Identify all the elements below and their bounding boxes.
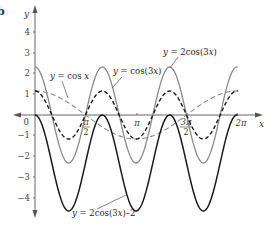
svg-text:2: 2 (83, 127, 88, 137)
label-2cos-3x-minus-2: y = 2cos(3x)–2 (71, 208, 136, 218)
x-tick-2pi: 2π (235, 118, 247, 128)
leader-cos-3x (112, 77, 122, 88)
y-tick-minus3: −3 (17, 172, 30, 182)
label-cos-3x: y = cos(3x) (112, 66, 161, 76)
label-2cos-3x: y = 2cos(3x) (162, 47, 217, 57)
y-tick-0: 0 (24, 117, 29, 127)
curves (35, 67, 238, 211)
leader-2cos-3x-minus-2 (97, 195, 126, 209)
function-graph: b 4 3 2 1 0 −1 −2 −3 −4 (0, 0, 270, 227)
leader-cos-x (62, 81, 68, 98)
y-tick-3: 3 (25, 48, 30, 58)
y-tick-minus4: −4 (17, 193, 30, 203)
label-cos-x: y = cos x (49, 71, 89, 81)
y-tick-minus1: −1 (17, 130, 30, 140)
panel-letter: b (0, 5, 5, 18)
leader-2cos-3x (170, 57, 178, 68)
y-tick-minus2: −2 (17, 151, 30, 161)
y-tick-2: 2 (25, 68, 30, 78)
y-axis-down-arrow-icon (33, 210, 38, 218)
svg-text:2: 2 (183, 127, 188, 137)
y-tick-4: 4 (25, 27, 30, 37)
y-axis-label: y (23, 9, 30, 19)
x-axis-right-arrow-icon (255, 113, 263, 118)
y-tick-1: 1 (25, 89, 30, 99)
x-tick-pi: π (133, 118, 140, 128)
x-axis-label: x (259, 119, 264, 129)
x-axis-left-arrow-icon (13, 113, 21, 118)
y-axis-up-arrow-icon (33, 5, 38, 13)
